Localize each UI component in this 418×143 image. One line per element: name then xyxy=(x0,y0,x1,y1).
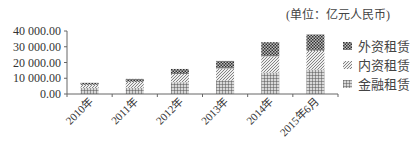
y-tick-label: 20 000.00 xyxy=(13,56,61,70)
segment-foreign xyxy=(306,34,324,50)
segment-foreign xyxy=(261,42,279,56)
segment-foreign xyxy=(81,83,99,85)
segment-domestic xyxy=(306,51,324,70)
x-tick-label: 2010年 xyxy=(62,94,95,127)
x-tick-label: 2012年 xyxy=(153,94,186,127)
segment-domestic xyxy=(81,85,99,88)
legend-item-financial: 金融租赁 xyxy=(343,74,410,93)
segment-domestic xyxy=(126,82,144,88)
segment-domestic xyxy=(261,56,279,72)
x-tick-label: 2015年6月 xyxy=(277,94,321,138)
y-tick-label: 10 000.00 xyxy=(13,71,61,85)
segment-domestic xyxy=(216,68,234,80)
bars xyxy=(81,34,325,94)
legend-item-foreign: 外资租赁 xyxy=(343,36,410,55)
y-tick-label: 40 000.00 xyxy=(13,24,61,38)
segment-foreign xyxy=(126,79,144,82)
x-tick-label: 2011年 xyxy=(108,94,140,126)
segment-financial xyxy=(306,70,324,94)
segment-foreign xyxy=(216,61,234,68)
legend-label: 内资租赁 xyxy=(358,55,410,74)
y-tick-label: 30 000.00 xyxy=(13,40,61,54)
segment-domestic xyxy=(171,74,189,82)
x-tick-label: 2014年 xyxy=(243,94,276,127)
legend-label: 外资租赁 xyxy=(358,36,410,55)
x-tick-label: 2013年 xyxy=(198,94,231,127)
grid-pattern-icon xyxy=(343,80,352,88)
diagonal-pattern-icon xyxy=(343,61,352,69)
legend-item-domestic: 内资租赁 xyxy=(343,55,410,74)
dots-pattern-icon xyxy=(343,42,352,50)
y-tick-label: 0.00 xyxy=(40,87,61,101)
legend-label: 金融租赁 xyxy=(358,74,410,93)
segment-financial xyxy=(126,88,144,94)
segment-financial xyxy=(81,88,99,94)
segment-financial xyxy=(216,80,234,94)
x-axis-labels: 2010年2011年2012年2013年2014年2015年6月 xyxy=(62,94,320,138)
segment-financial xyxy=(261,73,279,94)
legend: 外资租赁 内资租赁 金融租赁 xyxy=(343,36,410,93)
segment-foreign xyxy=(171,69,189,74)
segment-financial xyxy=(171,82,189,94)
